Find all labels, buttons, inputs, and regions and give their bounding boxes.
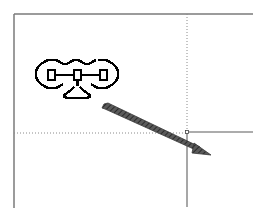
intersection-marker — [186, 131, 189, 134]
arrow-head — [192, 143, 211, 155]
diagram-canvas — [0, 0, 267, 220]
chain-link-icon — [36, 60, 118, 98]
diagram-svg — [0, 0, 267, 220]
arrow-shaft — [102, 103, 200, 151]
arrow — [102, 103, 211, 155]
